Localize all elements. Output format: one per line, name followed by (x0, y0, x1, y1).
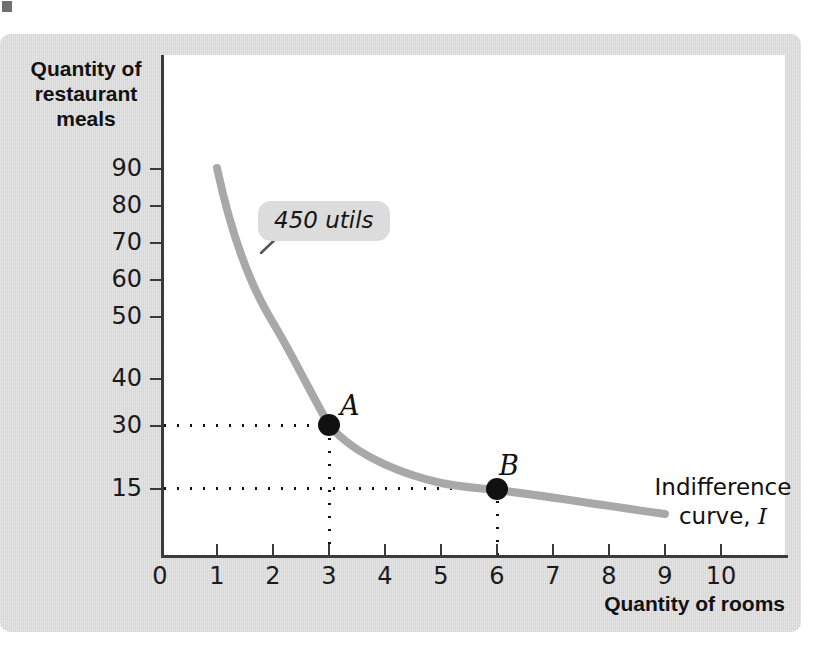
y-axis-tick-50 (150, 316, 164, 318)
utils-callout-label: 450 utils (258, 201, 390, 241)
y-axis-tick-80 (150, 205, 164, 207)
x-axis-tick-5 (440, 544, 442, 558)
x-axis-label-2: 2 (253, 562, 293, 590)
indifference-curve-annotation: Indifference curve, I (653, 473, 793, 531)
y-axis-tick-15 (150, 488, 164, 490)
x-axis-tick-1 (216, 544, 218, 558)
y-axis-label-80: 80 (82, 191, 142, 219)
x-axis-label-10: 10 (701, 562, 741, 590)
x-axis-label-9: 9 (645, 562, 685, 590)
x-axis-label-0: 0 (140, 562, 180, 590)
y-axis-label-50: 50 (82, 302, 142, 330)
y-axis-title-line-2: restaurant (18, 81, 154, 106)
y-axis-tick-30 (150, 425, 164, 427)
y-axis-label-30: 30 (82, 411, 142, 439)
x-axis-tick-10 (720, 544, 722, 558)
x-axis-label-7: 7 (533, 562, 573, 590)
data-point-b-label: B (499, 450, 519, 481)
y-axis-label-40: 40 (82, 364, 142, 392)
x-axis-label-1: 1 (197, 562, 237, 590)
curve-annotation-text: curve, (679, 503, 751, 529)
x-axis-label-5: 5 (421, 562, 461, 590)
y-axis-label-60: 60 (82, 265, 142, 293)
y-axis-label-70: 70 (82, 228, 142, 256)
scan-artifact (2, 1, 12, 12)
x-axis-tick-9 (664, 544, 666, 558)
x-axis-tick-2 (272, 544, 274, 558)
x-axis-tick-4 (384, 544, 386, 558)
y-axis-tick-90 (150, 168, 164, 170)
curve-annotation-line-2: curve, I (653, 502, 793, 531)
x-axis-label-3: 3 (309, 562, 349, 590)
x-axis-tick-8 (608, 544, 610, 558)
x-axis-label-8: 8 (589, 562, 629, 590)
curve-symbol-i: I (758, 503, 767, 529)
y-axis-title: Quantity of restaurant meals (18, 56, 154, 131)
x-axis-tick-7 (552, 544, 554, 558)
y-axis-label-15: 15 (82, 474, 142, 502)
y-axis-line (161, 55, 164, 558)
x-axis-title: Quantity of rooms (520, 592, 785, 616)
x-axis-line (161, 555, 788, 558)
x-axis-label-4: 4 (365, 562, 405, 590)
x-axis-tick-3 (328, 544, 330, 558)
y-axis-label-90: 90 (82, 154, 142, 182)
y-axis-tick-40 (150, 378, 164, 380)
y-axis-tick-70 (150, 242, 164, 244)
y-axis-tick-60 (150, 279, 164, 281)
x-axis-tick-6 (496, 544, 498, 558)
y-axis-title-line-1: Quantity of (18, 56, 154, 81)
data-point-a-label: A (340, 390, 360, 421)
x-axis-label-6: 6 (477, 562, 517, 590)
y-axis-title-line-3: meals (18, 106, 154, 131)
curve-annotation-line-1: Indifference (653, 473, 793, 502)
